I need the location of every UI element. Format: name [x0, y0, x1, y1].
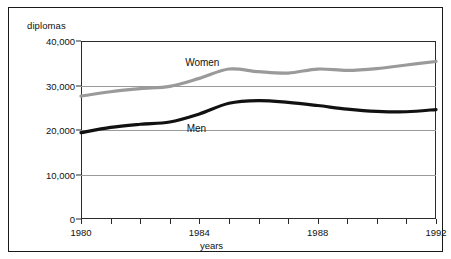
x-tick-mark	[288, 219, 289, 224]
series-label-women: Women	[185, 57, 219, 68]
x-tick-mark	[140, 219, 141, 224]
x-tick-mark	[318, 219, 319, 224]
y-axis-caption: diplomas	[27, 20, 66, 31]
x-tick-mark	[436, 219, 437, 224]
x-axis-caption: years	[9, 240, 442, 251]
y-tick-label: 20,000	[9, 125, 75, 136]
x-tick-mark	[199, 219, 200, 224]
x-tick-mark	[81, 219, 82, 224]
x-tick-mark	[170, 219, 171, 224]
y-tick-label: 30,000	[9, 80, 75, 91]
y-tick-mark	[76, 130, 81, 131]
x-tick-mark	[111, 219, 112, 224]
x-tick-label: 1984	[189, 227, 210, 238]
x-tick-mark	[259, 219, 260, 224]
x-tick-mark	[377, 219, 378, 224]
y-tick-label: 0	[9, 214, 75, 225]
y-tick-label: 10,000	[9, 169, 75, 180]
gridline	[81, 175, 436, 176]
x-tick-mark	[229, 219, 230, 224]
y-tick-mark	[76, 174, 81, 175]
x-tick-label: 1988	[307, 227, 328, 238]
x-tick-mark	[406, 219, 407, 224]
gridline	[81, 130, 436, 131]
x-tick-label: 1980	[70, 227, 91, 238]
y-tick-label: 40,000	[9, 36, 75, 47]
series-label-men: Men	[187, 123, 206, 134]
y-tick-mark	[76, 85, 81, 86]
y-tick-mark	[76, 41, 81, 42]
gridline	[81, 86, 436, 87]
x-tick-mark	[347, 219, 348, 224]
figure-frame: diplomas 40,00030,00020,00010,0000198019…	[8, 7, 443, 252]
x-tick-label: 1992	[425, 227, 446, 238]
x-axis-caption-text: years	[200, 240, 223, 251]
